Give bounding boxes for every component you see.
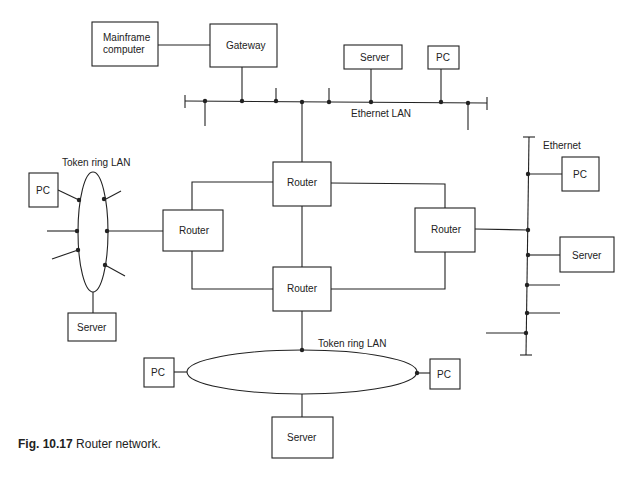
ethernet-right-server-node: Server [560,237,614,272]
figure-caption: Fig. 10.17 Router network. [18,437,161,451]
token-ring-bottom: Token ring LAN [174,338,430,417]
ring-left-server-node: Server [68,313,116,341]
router-network-diagram: Ethernet LAN Mainframe computer Gateway … [0,0,642,480]
ring-bottom-pc-right-node: PC [430,359,460,389]
router-right-node: Router [415,208,475,252]
ring-left-pc-label: PC [36,185,50,196]
ring-bottom-server-node: Server [272,417,333,458]
ethernet-top-server-node: Server [344,45,402,69]
gateway-node: Gateway [210,24,277,67]
ethernet-top-pc-label: PC [436,52,450,63]
router-top-node: Router [273,162,331,206]
ethernet-top-pc-node: PC [428,46,459,69]
ring-bottom-pc-left-node: PC [144,358,174,387]
router-bottom-node: Router [273,267,331,311]
ethernet-right-server-label: Server [572,250,602,261]
ring-left-server-label: Server [77,322,107,333]
figure-number: Fig. 10.17 [18,437,73,451]
router-right-label: Router [431,224,462,235]
ring-bottom-server-label: Server [287,432,317,443]
token-ring-left-label: Token ring LAN [62,157,130,168]
ring-left-pc-node: PC [29,173,58,207]
router-top-label: Router [287,177,318,188]
ethernet-right-label: Ethernet [543,140,581,151]
gateway-label: Gateway [226,40,265,51]
ethernet-right-pc-label: PC [573,169,587,180]
ring-bottom-pc-left-label: PC [151,367,165,378]
ethernet-lan-top-label: Ethernet LAN [351,108,411,119]
router-left-label: Router [179,225,210,236]
token-ring-left: Token ring LAN [47,157,163,313]
ethernet-right-pc-node: PC [562,157,599,191]
token-ring-bottom-label: Token ring LAN [318,338,386,349]
router-bottom-label: Router [287,283,318,294]
mainframe-label-line1: Mainframe [103,32,151,43]
ring-bottom-pc-right-label: PC [437,369,451,380]
ethernet-lan-top: Ethernet LAN [185,88,487,130]
figure-caption-text: Router network. [76,437,161,451]
mainframe-node: Mainframe computer [92,22,158,66]
ethernet-top-server-label: Server [360,52,390,63]
mainframe-label-line2: computer [103,44,145,55]
router-left-node: Router [163,210,223,251]
